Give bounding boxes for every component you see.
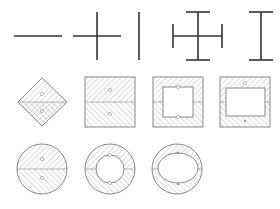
square-solid-section — [85, 77, 135, 127]
cross-symbol — [73, 12, 121, 60]
circle-solid-section — [17, 144, 67, 194]
section-symbols-diagram — [0, 0, 280, 209]
rectangle-hollow-thin-section — [220, 77, 270, 127]
capped-cross-symbol — [173, 12, 222, 60]
i-beam-symbol — [249, 12, 273, 60]
circle-hollow-section — [85, 144, 135, 194]
square-hollow-thick-section — [153, 77, 203, 127]
diamond-solid-section — [18, 78, 67, 126]
circle-hollow-elliptic-section — [152, 144, 202, 194]
